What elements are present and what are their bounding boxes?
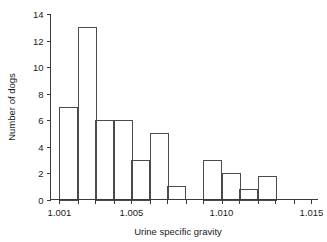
histogram-bar — [79, 28, 97, 200]
x-axis-title: Urine specific gravity — [134, 226, 222, 237]
x-tick-labels-group: 1.0011.0051.0101.015 — [48, 207, 324, 218]
y-tick-label: 6 — [38, 115, 43, 126]
histogram-bar — [115, 121, 133, 201]
histogram-bar — [168, 187, 186, 200]
x-tick-label: 1.010 — [210, 207, 234, 218]
histogram-bar — [151, 134, 169, 200]
y-tick-label: 8 — [38, 89, 43, 100]
y-tick-label: 4 — [38, 142, 43, 153]
x-axis: 1.0011.0051.0101.015 Urine specific grav… — [48, 200, 324, 238]
y-tick-label: 14 — [33, 9, 44, 20]
y-ticks-group: 02468101214 — [33, 9, 51, 206]
x-tick-label: 1.015 — [300, 207, 324, 218]
plot-area — [60, 28, 277, 201]
bars-group — [60, 28, 277, 201]
x-tick-label: 1.001 — [48, 207, 72, 218]
y-axis-title: Number of dogs — [6, 73, 17, 141]
histogram-figure: 02468101214 Number of dogs 1.0011.0051.0… — [0, 0, 327, 242]
histogram-bar — [132, 161, 150, 201]
histogram-bar — [60, 108, 78, 201]
y-tick-label: 10 — [33, 62, 44, 73]
y-tick-label: 0 — [38, 195, 43, 206]
histogram-bar — [223, 174, 241, 201]
histogram-bar — [204, 161, 222, 201]
histogram-bar — [96, 121, 114, 201]
y-tick-label: 2 — [38, 168, 43, 179]
x-tick-label: 1.005 — [120, 207, 144, 218]
histogram-bar — [240, 190, 258, 201]
y-tick-label: 12 — [33, 36, 44, 47]
histogram-bar — [259, 177, 277, 201]
y-axis: 02468101214 Number of dogs — [6, 9, 51, 206]
